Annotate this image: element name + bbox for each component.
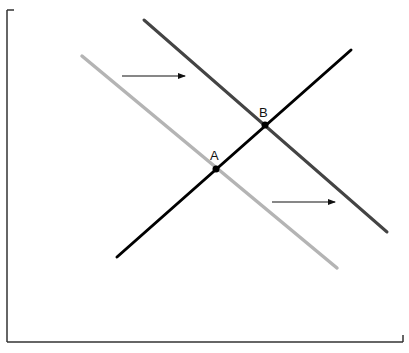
diagram-canvas: A B	[0, 0, 409, 353]
axes	[7, 10, 403, 342]
equilibrium-point-b	[262, 122, 269, 129]
point-label-b: B	[259, 105, 268, 120]
supply-curve	[117, 50, 351, 257]
equilibrium-point-a	[213, 166, 220, 173]
point-label-a: A	[210, 148, 219, 163]
